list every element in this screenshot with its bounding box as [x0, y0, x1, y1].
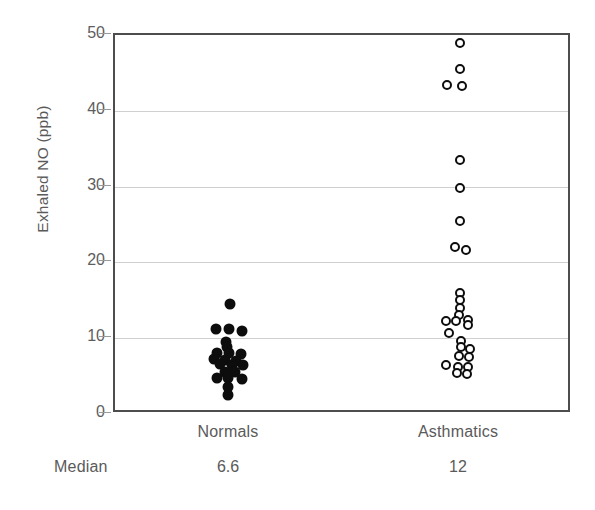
data-point [441, 360, 451, 370]
median-value-asthmatics: 12 [449, 458, 467, 476]
data-point [211, 324, 222, 335]
data-point [212, 372, 223, 383]
data-point [461, 245, 471, 255]
median-row-label: Median [54, 458, 108, 476]
x-axis-category-labels: NormalsAsthmatics [0, 423, 595, 449]
y-tick-mark-40 [99, 109, 111, 110]
y-tick-mark-30 [99, 185, 111, 186]
data-point [462, 369, 472, 379]
data-point [225, 299, 236, 310]
gridline-40 [115, 111, 568, 112]
median-value-normals: 6.6 [217, 458, 239, 476]
x-axis-label-normals: Normals [198, 423, 259, 441]
gridline-30 [115, 187, 568, 188]
data-point [463, 320, 473, 330]
data-point [441, 316, 451, 326]
data-point [237, 374, 248, 385]
data-point [452, 368, 462, 378]
gridline-20 [115, 262, 568, 263]
data-point [237, 326, 248, 337]
data-point [457, 81, 467, 91]
median-summary-row: Median 6.612 [0, 458, 595, 484]
data-point [455, 183, 465, 193]
data-point [455, 38, 465, 48]
y-tick-mark-10 [99, 336, 111, 337]
data-point [455, 216, 465, 226]
x-axis-label-asthmatics: Asthmatics [418, 423, 498, 441]
data-point [450, 242, 460, 252]
data-point [455, 64, 465, 74]
data-point [464, 352, 474, 362]
y-tick-mark-50 [99, 33, 111, 34]
plot-area [113, 33, 570, 412]
data-point [442, 80, 452, 90]
y-tick-mark-20 [99, 260, 111, 261]
data-point [223, 390, 234, 401]
data-point [444, 328, 454, 338]
dot-plot-figure: Exhaled NO (ppb) 01020304050 NormalsAsth… [0, 0, 595, 510]
data-point [451, 316, 461, 326]
gridline-10 [115, 338, 568, 339]
data-point [455, 155, 465, 165]
y-axis-tick-marks [0, 33, 115, 412]
data-point [454, 351, 464, 361]
y-tick-mark-0 [99, 412, 111, 413]
data-point [224, 324, 235, 335]
